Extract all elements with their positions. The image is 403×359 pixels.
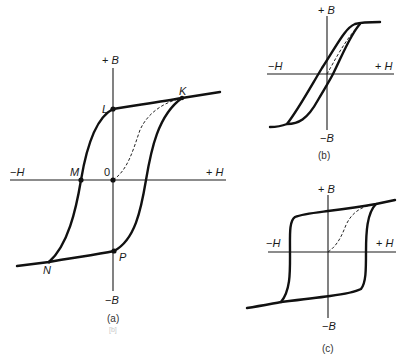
hysteresis-figure: + B −B −H + H L K M 0 P N (a) [b] + B −B… [0, 0, 403, 359]
caption-c: (c) [322, 343, 334, 354]
label-minus-b-a: −B [105, 294, 119, 306]
label-minus-h-c: −H [266, 237, 280, 249]
faint-footer-a: [b] [109, 326, 117, 334]
panel-c: + B −B −H + H (c) [247, 183, 396, 354]
upper-branch-c [281, 200, 395, 302]
label-minus-h-b: −H [268, 60, 282, 72]
label-P: P [119, 251, 127, 263]
lower-branch-c [247, 204, 376, 308]
label-L: L [102, 103, 108, 115]
label-plus-h-c: + H [376, 237, 394, 249]
point-M [78, 177, 83, 182]
point-origin [110, 177, 115, 182]
label-plus-b-c: + B [318, 183, 335, 195]
caption-b: (b) [318, 150, 330, 161]
label-plus-b-b: + B [318, 4, 335, 16]
label-M: M [70, 166, 80, 178]
panel-a: + B −B −H + H L K M 0 P N (a) [b] [10, 54, 226, 334]
label-N: N [43, 264, 51, 276]
label-plus-b-a: + B [102, 54, 119, 66]
point-L [110, 106, 115, 111]
point-P [111, 248, 116, 253]
label-minus-b-c: −B [322, 320, 336, 332]
caption-a: (a) [107, 313, 119, 324]
label-K: K [179, 85, 187, 97]
label-minus-h-a: −H [10, 166, 24, 178]
label-minus-b-b: −B [320, 132, 334, 144]
label-plus-h-b: + H [375, 60, 393, 72]
label-origin: 0 [104, 166, 110, 178]
panel-b: + B −B −H + H (b) [267, 4, 394, 161]
label-plus-h-a: + H [206, 166, 224, 178]
